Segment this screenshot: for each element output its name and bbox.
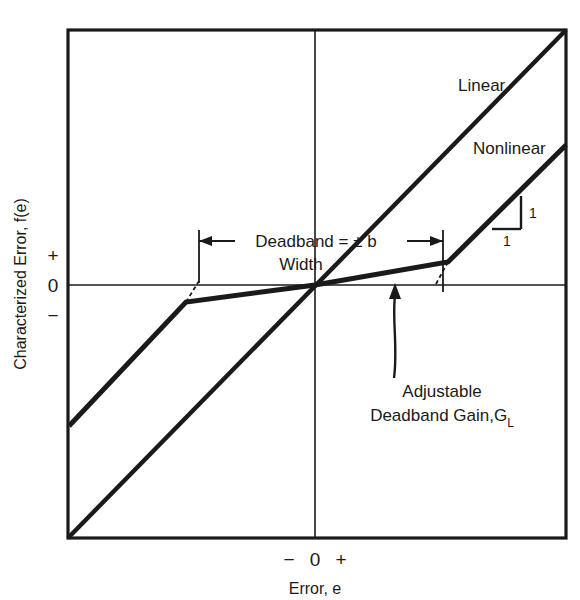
slope-rise-label: 1 [529, 205, 537, 221]
y-axis-title: Characterized Error, f(e) [12, 198, 29, 370]
gain-label-line2-text: Deadband Gain,G [370, 406, 507, 425]
x-axis-title: Error, e [289, 580, 342, 597]
slope-run-label: 1 [503, 233, 511, 249]
y-tick-minus: − [47, 305, 58, 326]
gain-label-line1: Adjustable [402, 382, 481, 401]
y-tick-plus: + [47, 245, 58, 266]
y-tick-zero: 0 [48, 275, 59, 296]
x-tick-plus: + [335, 549, 346, 570]
nonlinear-curve-label: Nonlinear [473, 139, 546, 158]
x-tick-group: − 0 + [283, 549, 346, 570]
x-tick-zero: 0 [310, 549, 321, 570]
x-tick-minus: − [283, 549, 294, 570]
deadband-label-line1: Deadband = ± b [255, 232, 376, 251]
gain-label-subscript: L [507, 416, 514, 430]
linear-curve-label: Linear [458, 76, 506, 95]
deadband-label-line2: Width [279, 255, 322, 274]
deadband-characteristic-figure: Deadband = ± b Width Linear Nonlinear 1 … [0, 0, 580, 600]
